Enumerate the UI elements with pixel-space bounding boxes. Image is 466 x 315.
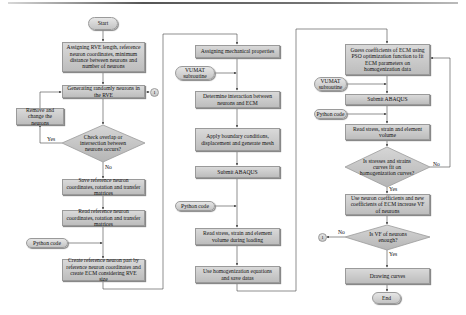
- guess-coefficients-step: Guess coefficients of ECM using PSO opti…: [345, 44, 430, 75]
- boundary-conditions-step: Apply boundary conditions, displacement …: [195, 128, 280, 151]
- vf-no-label: No: [338, 229, 345, 235]
- save-reference-step: Save reference neuron coordinates, rotat…: [62, 179, 145, 195]
- remove-change-step: Remove and change the neurons: [16, 108, 64, 125]
- vf-yes-label: Yes: [389, 251, 397, 257]
- interaction-step: Determine interaction between neurons an…: [195, 91, 280, 108]
- vumat-input-2: VUMAT subroutine: [314, 77, 347, 91]
- connector-1-in: 1: [318, 233, 327, 242]
- end-terminal: End: [372, 292, 401, 304]
- read-stress-step: Read stress, strain and element volume: [345, 124, 430, 140]
- python-code-input-2: Python code: [175, 201, 215, 211]
- check-overlap-decision: Check overlap or intersection between ne…: [72, 131, 134, 155]
- fit-no-label: No: [433, 161, 440, 167]
- assign-mechanical-step: Assigning mechanical properties: [195, 45, 280, 58]
- submit-abaqus-step-1: Submit ABAQUS: [195, 166, 280, 178]
- homogenization-step: Use homogenization equations and save da…: [195, 266, 280, 283]
- fit-yes-label: Yes: [389, 186, 397, 192]
- yes-label: Yes: [47, 136, 55, 142]
- generate-neurons-step: Generating randomly neurons in the RVE: [62, 85, 145, 98]
- read-reference-step: Read reference neuron coordinates, rotat…: [62, 210, 145, 226]
- vumat-input-1: VUMAT subroutine: [175, 66, 215, 80]
- use-coefficients-step: Use neuron coefficients and new coeffici…: [345, 194, 430, 215]
- drawing-curves-step: Drawing curves: [345, 268, 430, 284]
- connector-1-out: 1: [150, 88, 159, 97]
- assign-rve-step: Assigning RVE length, reference neuron c…: [62, 42, 145, 72]
- python-code-input-3: Python code: [314, 109, 347, 119]
- fit-check-decision: Is stresses and strains curves fit on ho…: [358, 153, 416, 181]
- vf-check-decision: Is VF of neurons enough?: [360, 231, 416, 243]
- submit-abaqus-step-2: Submit ABAQUS: [345, 94, 430, 105]
- python-code-input-1: Python code: [26, 238, 68, 248]
- create-part-step: Create reference neuron part by referenc…: [62, 259, 145, 281]
- start-terminal: Start: [88, 17, 118, 30]
- read-stress-loading-step: Read stress, strain and element volume d…: [195, 228, 280, 245]
- no-label: No: [105, 164, 112, 170]
